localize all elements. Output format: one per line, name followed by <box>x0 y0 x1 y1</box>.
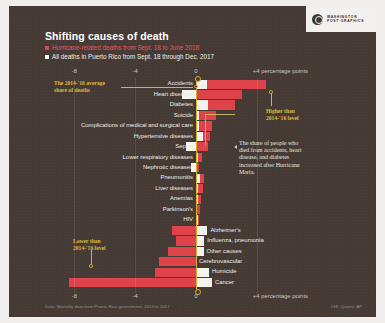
source-note: Data: Mortality data from Puerto Rico go… <box>45 304 170 309</box>
x-tick-label--4-percentage-points: +4 percentage points <box>253 68 308 74</box>
annotation-note: The share of people who died from accide… <box>239 140 349 176</box>
bar-all-deaths <box>196 278 212 287</box>
category-label: Influenza, pneumonia <box>207 237 263 243</box>
bar-all-deaths <box>196 247 204 256</box>
bar-hurricane <box>168 247 196 256</box>
bar-hurricane <box>196 90 242 99</box>
bar-all-deaths <box>196 236 204 245</box>
category-label: Anemias <box>170 195 193 201</box>
category-label: Parkinson's <box>163 206 193 212</box>
category-label: Alzheimer's <box>210 227 240 233</box>
category-label: Pneumonitis <box>161 174 193 180</box>
category-label: Heart diseases <box>154 91 193 97</box>
leader-average-share <box>121 87 193 88</box>
leader-higher-than <box>271 92 272 106</box>
category-label: Complications of medical and surgical ca… <box>81 122 193 128</box>
category-label: Hypertensive diseases <box>134 133 193 139</box>
bar-row: Anemias <box>9 194 376 204</box>
gridline--4 <box>135 78 136 293</box>
bar-hurricane <box>159 257 196 266</box>
leader-dot-lower-than <box>89 264 93 268</box>
gridline-4 <box>257 78 258 293</box>
x-tick-label--4: -4 <box>133 293 138 299</box>
category-label: Homicide <box>212 268 237 274</box>
category-label: Sepsis <box>175 143 193 149</box>
leader-dot-higher-than <box>269 90 273 94</box>
bar-row: Parkinson's <box>9 204 376 214</box>
leader-dot-average-share <box>194 85 198 89</box>
category-label: Nephrotic diseases <box>143 164 193 170</box>
x-tick-label--8: -8 <box>72 293 77 299</box>
bar-row: Other causes <box>9 246 376 256</box>
gridline--8 <box>74 78 75 293</box>
category-label: Liver diseases <box>155 185 193 191</box>
x-tick-label--4: -4 <box>133 68 138 74</box>
bar-all-deaths <box>196 100 208 109</box>
category-label: Accidents <box>167 80 193 86</box>
note-pointer-icon <box>234 145 237 149</box>
bar-hurricane <box>172 226 196 235</box>
annotation-lower-than: Lower than 2014-'16 level <box>73 238 105 251</box>
bar-all-deaths <box>196 268 209 277</box>
bar-row: Liver diseases <box>9 184 376 194</box>
x-tick-label--4-percentage-points: +4 percentage points <box>253 293 308 299</box>
bar-hurricane <box>155 268 196 277</box>
bar-row: Influenza, pneumonia <box>9 236 376 246</box>
bar-all-deaths <box>196 226 207 235</box>
chart-card: WASHINGTON POST GRAPHICS Shifting causes… <box>9 6 376 317</box>
x-axis-bottom: -8-40+4 percentage points <box>9 293 376 303</box>
bar-row: HIV <box>9 215 376 225</box>
bar-hurricane <box>196 142 208 151</box>
x-tick-label--8: -8 <box>72 68 77 74</box>
bar-row: Alzheimer's <box>9 225 376 235</box>
category-label: Cancer <box>215 279 234 285</box>
x-axis-top: -8-40+4 percentage points <box>9 68 376 78</box>
bar-row: Suicide <box>9 110 376 120</box>
bar-row: Diabetes <box>9 100 376 110</box>
bar-hurricane <box>69 278 196 287</box>
leader-note-horizontal <box>205 114 235 115</box>
category-label: HIV <box>183 216 193 222</box>
category-label: Diabetes <box>170 101 193 107</box>
x-tick-label-0: 0 <box>194 68 197 74</box>
category-label: Other causes <box>207 248 242 254</box>
bar-hurricane <box>176 236 196 245</box>
bar-row: Cancer <box>9 278 376 288</box>
bar-all-deaths <box>196 132 203 141</box>
chart-screenshot: WASHINGTON POST GRAPHICS Shifting causes… <box>0 0 385 323</box>
zero-baseline <box>196 78 197 293</box>
category-label: Lower respiratory diseases <box>123 154 193 160</box>
bar-row: Cerebrovascular <box>9 257 376 267</box>
credit-note: CHI, Quartz, AP <box>331 304 362 309</box>
annotation-average-share: The 2014-'16 average share of deaths <box>54 80 105 93</box>
annotation-higher-than: Higher than 2014-'16 level <box>266 108 298 121</box>
category-label: Suicide <box>174 112 193 118</box>
bar-row: Homicide <box>9 267 376 277</box>
bar-row: Complications of medical and surgical ca… <box>9 121 376 131</box>
category-label: Cerebrovascular <box>199 258 242 264</box>
leader-note-vertical <box>205 114 206 146</box>
